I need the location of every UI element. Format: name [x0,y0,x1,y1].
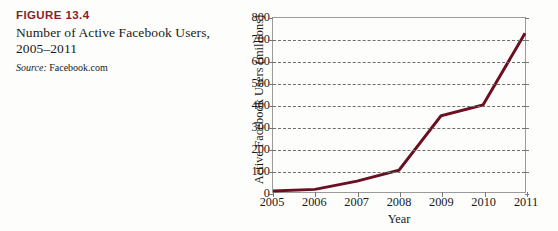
gridline [273,40,525,41]
source-value: Facebook.com [47,62,108,73]
figure-caption-block: FIGURE 13.4 Number of Active Facebook Us… [16,9,211,74]
y-tick-mark-right [525,172,529,173]
y-tick-label: 800 [236,11,270,23]
y-tick-mark-right [525,106,529,107]
figure-title: Number of Active Facebook Users, 2005–20… [16,25,211,58]
y-tick-mark [269,128,273,129]
y-tick-label: 600 [236,55,270,67]
figure-source-line: Source: Facebook.com [16,62,211,74]
data-series-line [273,18,525,192]
y-tick-label: 100 [236,165,270,177]
y-tick-mark-right [525,18,529,19]
y-tick-mark [269,62,273,63]
y-tick-mark [269,106,273,107]
x-tick-label: 2007 [334,196,380,208]
y-tick-mark-right [525,128,529,129]
y-tick-mark-right [525,40,529,41]
gridline [273,150,525,151]
x-tick-label: 2005 [249,196,295,208]
y-tick-label: 500 [236,77,270,89]
y-tick-mark [269,172,273,173]
y-tick-mark [269,150,273,151]
plot-area [272,17,526,193]
x-tick-label: 2008 [376,196,422,208]
y-tick-mark [269,40,273,41]
x-tick-label: 2011 [503,196,549,208]
figure-page: FIGURE 13.4 Number of Active Facebook Us… [0,0,558,231]
y-tick-mark [269,84,273,85]
gridline [273,106,525,107]
y-tick-label: 400 [236,99,270,111]
y-tick-mark-right [525,150,529,151]
line-chart: Active Facebook Users (millions) 0100200… [214,0,558,231]
y-tick-label: 300 [236,121,270,133]
y-tick-mark [269,18,273,19]
gridline [273,128,525,129]
gridline [273,84,525,85]
x-tick-label: 2006 [291,196,337,208]
x-axis-tick-labels: 2005200620072008200920102011 [272,196,526,212]
x-tick-label: 2010 [461,196,507,208]
y-tick-mark-right [525,62,529,63]
x-tick-label: 2009 [418,196,464,208]
x-axis-title: Year [272,212,526,227]
gridline [273,172,525,173]
y-tick-label: 200 [236,143,270,155]
figure-number-label: FIGURE 13.4 [16,9,211,22]
gridline [273,62,525,63]
y-tick-mark-right [525,84,529,85]
y-tick-label: 700 [236,33,270,45]
source-label: Source: [16,62,47,73]
